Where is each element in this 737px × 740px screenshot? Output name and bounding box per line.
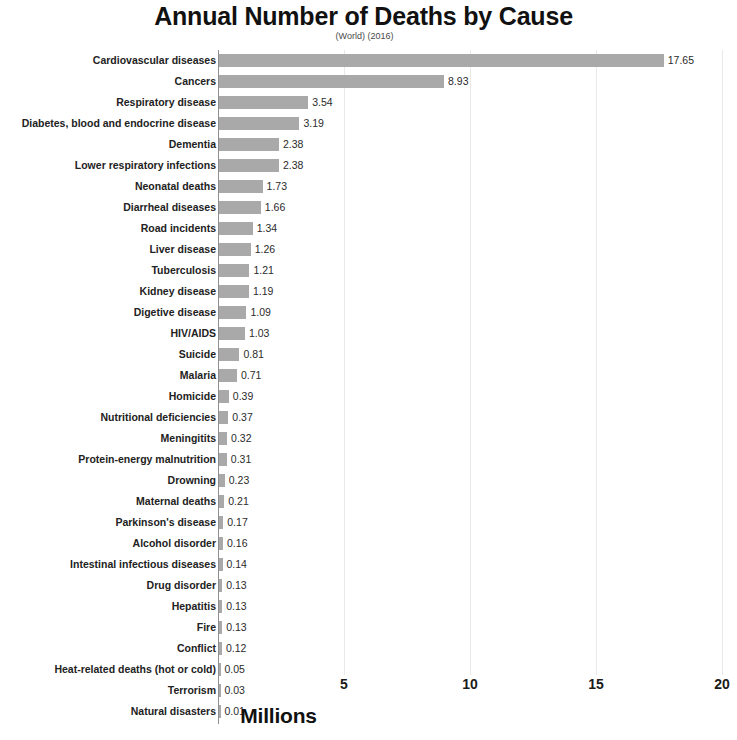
bar-row: Road incidents1.34	[0, 218, 737, 239]
bar-row: HIV/AIDS1.03	[0, 323, 737, 344]
bar-category-label: Homicide	[169, 390, 216, 402]
bar[interactable]	[219, 453, 227, 466]
bar-row: Drug disorder0.13	[0, 575, 737, 596]
bar[interactable]	[219, 285, 249, 298]
bar-category-label: Diarrheal diseases	[123, 201, 216, 213]
bar[interactable]	[219, 159, 279, 172]
bar-value-label: 2.38	[279, 138, 303, 151]
bar-row: Meningitits0.32	[0, 428, 737, 449]
bar-row: Diarrheal diseases1.66	[0, 197, 737, 218]
bar-value-label: 1.09	[246, 306, 270, 319]
x-tick-label-15: 15	[588, 675, 604, 693]
bar-value-label: 0.14	[223, 558, 247, 571]
bar-row: Intestinal infectious diseases0.14	[0, 554, 737, 575]
bar-category-label: Dementia	[169, 138, 216, 150]
bar-chart-plot-area: Cardiovascular diseases17.65Cancers8.93R…	[0, 50, 737, 675]
bar-row: Alcohol disorder0.16	[0, 533, 737, 554]
bar-value-label: 8.93	[444, 75, 468, 88]
bar-category-label: Cardiovascular diseases	[93, 54, 216, 66]
bar[interactable]	[219, 432, 227, 445]
bar-category-label: Liver disease	[149, 243, 216, 255]
bar-category-label: Maternal deaths	[136, 495, 216, 507]
bar-category-label: Cancers	[175, 75, 216, 87]
bar-category-label: Suicide	[179, 348, 216, 360]
bar-value-label: 0.17	[223, 516, 247, 529]
bar-category-label: Drug disorder	[147, 579, 216, 591]
bar-row: Conflict0.12	[0, 638, 737, 659]
bar-value-label: 0.37	[228, 411, 252, 424]
bar[interactable]	[219, 390, 229, 403]
bar-row: Diabetes, blood and endocrine disease3.1…	[0, 113, 737, 134]
bar-value-label: 1.19	[249, 285, 273, 298]
bar[interactable]	[219, 327, 245, 340]
bar-row: Hepatitis0.13	[0, 596, 737, 617]
bar-category-label: Intestinal infectious diseases	[70, 558, 216, 570]
x-axis-ticks: 5101520	[0, 675, 737, 701]
bar-category-label: Neonatal deaths	[135, 180, 216, 192]
bar[interactable]	[219, 201, 261, 214]
bar-value-label: 1.66	[261, 201, 285, 214]
chart-subtitle: (World) (2016)	[0, 31, 737, 42]
bar-category-label: Drowning	[168, 474, 216, 486]
bar-value-label: 0.32	[227, 432, 251, 445]
bar-row: Parkinson's disease0.17	[0, 512, 737, 533]
bar-value-label: 1.34	[253, 222, 277, 235]
bar-category-label: Nutritional deficiencies	[100, 411, 216, 423]
bar[interactable]	[219, 117, 299, 130]
bar-value-label: 0.13	[222, 579, 246, 592]
bar-row: Tuberculosis1.21	[0, 260, 737, 281]
bar-category-label: Road incidents	[141, 222, 216, 234]
bar-value-label: 3.54	[308, 96, 332, 109]
bar-row: Lower respiratory infections2.38	[0, 155, 737, 176]
bar-category-label: HIV/AIDS	[170, 327, 216, 339]
bar-row: Cardiovascular diseases17.65	[0, 50, 737, 71]
bar-row: Homicide0.39	[0, 386, 737, 407]
bar-value-label: 0.12	[222, 642, 246, 655]
bar[interactable]	[219, 264, 249, 277]
bar-value-label: 0.21	[224, 495, 248, 508]
bar[interactable]	[219, 243, 251, 256]
chart-title: Annual Number of Deaths by Cause	[0, 2, 737, 30]
bar-category-label: Alcohol disorder	[133, 537, 216, 549]
bar[interactable]	[219, 222, 253, 235]
bar[interactable]	[219, 54, 664, 67]
bar-category-label: Kidney disease	[140, 285, 216, 297]
bar-row: Liver disease1.26	[0, 239, 737, 260]
title-block: Annual Number of Deaths by Cause (World)…	[0, 2, 737, 42]
bar-value-label: 0.13	[222, 600, 246, 613]
bar-category-label: Malaria	[180, 369, 216, 381]
bar-value-label: 0.16	[223, 537, 247, 550]
bar-value-label: 17.65	[664, 54, 694, 67]
bar[interactable]	[219, 369, 237, 382]
x-tick-label-20: 20	[714, 675, 730, 693]
bar-value-label: 1.26	[251, 243, 275, 256]
bar[interactable]	[219, 306, 246, 319]
bar-value-label: 0.31	[227, 453, 251, 466]
bar-row: Respiratory disease3.54	[0, 92, 737, 113]
bar[interactable]	[219, 348, 239, 361]
bar-row: Kidney disease1.19	[0, 281, 737, 302]
bar[interactable]	[219, 138, 279, 151]
bar-category-label: Fire	[197, 621, 216, 633]
x-tick-label-10: 10	[462, 675, 478, 693]
bar[interactable]	[219, 75, 444, 88]
bar-row: Nutritional deficiencies0.37	[0, 407, 737, 428]
bar-category-label: Conflict	[177, 642, 216, 654]
bar-row: Neonatal deaths1.73	[0, 176, 737, 197]
bar-value-label: 0.23	[225, 474, 249, 487]
bar-row: Maternal deaths0.21	[0, 491, 737, 512]
bar-category-label: Meningitits	[161, 432, 216, 444]
bar-category-label: Lower respiratory infections	[75, 159, 216, 171]
bar-value-label: 0.13	[222, 621, 246, 634]
bar-value-label: 1.03	[245, 327, 269, 340]
bar-row: Dementia2.38	[0, 134, 737, 155]
bar-category-label: Digetive disease	[134, 306, 216, 318]
bar-row: Drowning0.23	[0, 470, 737, 491]
bar-row: Cancers8.93	[0, 71, 737, 92]
bar-row: Malaria0.71	[0, 365, 737, 386]
bar[interactable]	[219, 411, 228, 424]
bar-value-label: 2.38	[279, 159, 303, 172]
bar[interactable]	[219, 96, 308, 109]
bar-value-label: 0.71	[237, 369, 261, 382]
bar[interactable]	[219, 180, 263, 193]
